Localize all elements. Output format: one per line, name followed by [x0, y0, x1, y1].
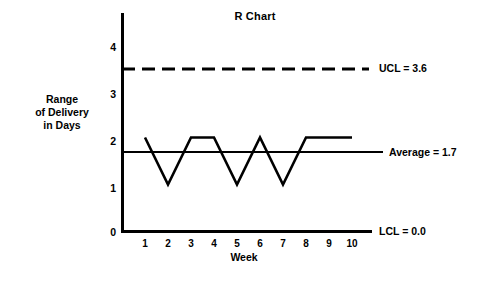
- lcl-limit-label: LCL = 0.0: [379, 225, 426, 237]
- x-axis-label: Week: [190, 251, 298, 263]
- ucl-limit-label: UCL = 3.6: [379, 62, 427, 74]
- chart-plot-area: [0, 0, 489, 283]
- average-limit-label: Average = 1.7: [389, 146, 457, 158]
- r-chart-figure: R Chart Range of Delivery in Days 4 3 2 …: [0, 0, 489, 283]
- range-series-line: [145, 138, 352, 185]
